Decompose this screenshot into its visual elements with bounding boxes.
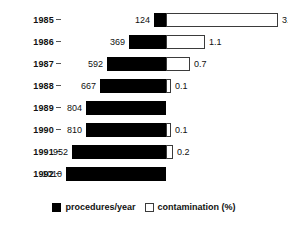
axis-tick (56, 19, 61, 20)
chart-row: 19886670.1 (0, 75, 288, 97)
year-label-cell: 1986 (8, 31, 54, 53)
chart-row: 19919520.2 (0, 141, 288, 163)
axis-tick (56, 129, 61, 130)
year-label-cell: 1985 (8, 9, 54, 31)
legend-label-procedures: procedures/year (65, 203, 135, 212)
year-label-cell: 1991 (8, 141, 54, 163)
bar-contamination (166, 145, 173, 159)
axis-tick (56, 63, 61, 64)
bar-procedures (86, 123, 166, 137)
bar-procedures (100, 79, 166, 93)
filled-square-icon (52, 203, 61, 212)
chart-row: 19851243.2 (0, 9, 288, 31)
procedures-value: 369 (62, 31, 129, 53)
chart-row: 1989804 (0, 97, 288, 119)
procedures-value: 667 (62, 75, 100, 97)
bar-procedures (66, 167, 166, 181)
year-label: 1991 (33, 148, 54, 157)
legend-label-contamination: contamination (%) (158, 203, 236, 212)
contamination-value: 0.1 (171, 119, 188, 141)
contamination-value: 0.7 (190, 53, 207, 75)
year-label: 1989 (33, 104, 54, 113)
contamination-value: 0.1 (171, 75, 188, 97)
procedures-value: 592 (62, 53, 107, 75)
chart-row: 19908100.1 (0, 119, 288, 141)
procedures-value: 804 (62, 97, 86, 119)
legend-item-procedures: procedures/year (52, 203, 135, 212)
axis-tick (56, 107, 61, 108)
chart-row: 19921010 (0, 163, 288, 185)
contamination-value: 0.2 (173, 141, 190, 163)
procedures-value: 1010 (62, 163, 66, 185)
bar-procedures (129, 35, 166, 49)
year-label: 1988 (33, 82, 54, 91)
chart-row: 19875920.7 (0, 53, 288, 75)
bar-procedures (72, 145, 166, 159)
legend-item-contamination: contamination (%) (145, 203, 236, 212)
bar-procedures (86, 101, 166, 115)
year-label: 1985 (33, 16, 54, 25)
bar-chart: 19851243.219863691.119875920.719886670.1… (0, 0, 288, 225)
chart-legend: procedures/year contamination (%) (0, 198, 288, 216)
bar-procedures (107, 57, 166, 71)
plot-area: 19851243.219863691.119875920.719886670.1… (0, 9, 288, 189)
contamination-value: 1.1 (205, 31, 222, 53)
procedures-value: 952 (62, 141, 72, 163)
procedures-value: 810 (62, 119, 86, 141)
year-label-cell: 1988 (8, 75, 54, 97)
bar-contamination (166, 13, 278, 27)
bar-procedures (154, 13, 166, 27)
bar-contamination (166, 57, 190, 71)
year-label-cell: 1989 (8, 97, 54, 119)
year-label: 1987 (33, 60, 54, 69)
axis-tick (56, 85, 61, 86)
procedures-value: 124 (62, 9, 154, 31)
contamination-value: 3.2 (278, 9, 288, 31)
bar-contamination (166, 35, 205, 49)
axis-tick (56, 41, 61, 42)
year-label-cell: 1987 (8, 53, 54, 75)
year-label: 1990 (33, 126, 54, 135)
hollow-square-icon (145, 203, 154, 212)
chart-row: 19863691.1 (0, 31, 288, 53)
year-label: 1986 (33, 38, 54, 47)
year-label-cell: 1990 (8, 119, 54, 141)
